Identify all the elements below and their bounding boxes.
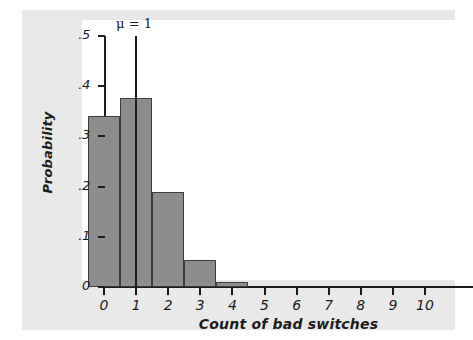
x-tick-label-2: 2 — [156, 297, 180, 313]
bar-4 — [216, 282, 248, 287]
x-tick-label-8: 8 — [349, 297, 373, 313]
x-tick-label-10: 10 — [413, 297, 437, 313]
y-axis-title: Probability — [40, 93, 55, 213]
x-tick-label-6: 6 — [285, 297, 309, 313]
x-tick-label-3: 3 — [188, 297, 212, 313]
x-tick-8 — [360, 288, 362, 295]
bar-0 — [88, 116, 120, 287]
x-tick-2 — [167, 288, 169, 295]
x-tick-9 — [392, 288, 394, 295]
y-tick-label-.2: .2 — [60, 178, 90, 193]
x-tick-label-4: 4 — [220, 297, 244, 313]
x-tick-7 — [328, 288, 330, 295]
x-tick-label-9: 9 — [381, 297, 405, 313]
mean-reference-line — [135, 36, 137, 289]
x-tick-3 — [199, 288, 201, 295]
mean-annotation-label: μ = 1 — [116, 16, 152, 31]
x-tick-label-0: 0 — [92, 297, 116, 313]
y-tick-label-.1: .1 — [60, 228, 90, 243]
bar-3 — [184, 260, 216, 287]
x-tick-label-1: 1 — [124, 297, 148, 313]
y-tick-label-.4: .4 — [60, 77, 90, 92]
x-tick-5 — [264, 288, 266, 295]
y-tick-.5 — [98, 35, 105, 37]
y-tick-.2 — [98, 186, 105, 188]
bar-2 — [152, 192, 184, 287]
x-tick-1 — [135, 288, 137, 295]
x-tick-label-7: 7 — [317, 297, 341, 313]
y-tick-.3 — [98, 135, 105, 137]
x-tick-4 — [231, 288, 233, 295]
figure-panel: 0.1.2.3.4.5 012345678910 μ = 1 Probabili… — [22, 10, 455, 330]
x-axis-title: Count of bad switches — [104, 316, 473, 332]
y-tick-label-.3: .3 — [60, 127, 90, 142]
x-tick-6 — [296, 288, 298, 295]
y-tick-label-0: 0 — [60, 278, 90, 293]
x-tick-label-5: 5 — [253, 297, 277, 313]
y-tick-.1 — [98, 236, 105, 238]
y-tick-label-.5: .5 — [60, 27, 90, 42]
y-tick-.4 — [98, 85, 105, 87]
x-tick-10 — [424, 288, 426, 295]
x-tick-0 — [103, 288, 105, 295]
